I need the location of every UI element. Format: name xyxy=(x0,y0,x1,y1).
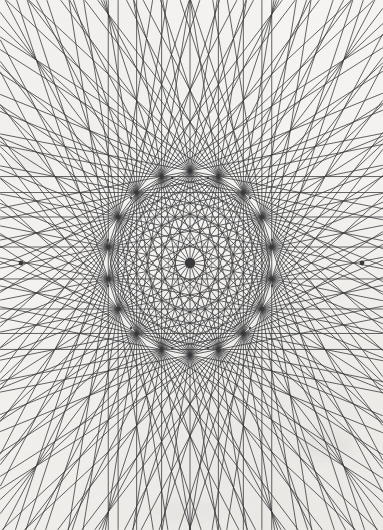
chord-line xyxy=(1,147,383,502)
major-vertex-node xyxy=(130,327,132,329)
chord-line xyxy=(191,1,365,530)
polygon-vertex-node xyxy=(135,190,139,194)
center-hub xyxy=(185,258,195,268)
polygon-vertex-node xyxy=(160,174,164,178)
center-hub-dot xyxy=(185,258,195,268)
polygon-vertex-node xyxy=(106,245,110,249)
polygon-vertex-node xyxy=(116,215,120,219)
edge-apex-node xyxy=(19,261,24,266)
major-vertex-node xyxy=(130,197,132,199)
polygon-vertex-node xyxy=(216,347,220,351)
chord-line xyxy=(68,1,344,530)
major-vertex-node xyxy=(271,285,273,287)
chord-line xyxy=(2,176,382,530)
chord-line xyxy=(37,1,313,530)
polygon-vertex-node xyxy=(160,347,164,351)
chord-line xyxy=(180,1,354,530)
major-vertex-node xyxy=(171,347,173,349)
chord-line xyxy=(212,1,296,530)
polygon-vertex-node xyxy=(241,190,245,194)
polygon-vertex-node xyxy=(270,245,274,249)
major-vertex-node xyxy=(107,239,109,241)
polygon-vertex-node xyxy=(106,277,110,281)
chord-line xyxy=(99,1,375,530)
polygon-vertex-node xyxy=(260,307,264,311)
chord-line xyxy=(26,1,200,530)
polygon-vertex-node xyxy=(270,277,274,281)
major-vertex-node xyxy=(249,327,251,329)
major-vertex-node xyxy=(207,347,209,349)
major-vertex-node xyxy=(107,285,109,287)
major-vertex-node xyxy=(171,177,173,179)
polygon-vertex-node xyxy=(260,215,264,219)
major-vertex-node xyxy=(207,177,209,179)
edge-apex-node xyxy=(360,261,365,266)
major-vertex-node xyxy=(271,239,273,241)
polygon-vertex-node xyxy=(188,169,192,173)
drawing-canvas xyxy=(0,0,383,530)
major-vertex-node xyxy=(249,197,251,199)
polygon-vertex-node xyxy=(188,353,192,357)
polygon-vertex-node xyxy=(135,331,139,335)
chord-line xyxy=(1,262,383,416)
chord-line xyxy=(1,1,351,327)
chord-line xyxy=(1,24,383,379)
polygon-vertex-node xyxy=(241,331,245,335)
polygon-vertex-node xyxy=(116,307,120,311)
polygon-vertex-node xyxy=(216,174,220,178)
chord-star-figure xyxy=(0,0,383,530)
